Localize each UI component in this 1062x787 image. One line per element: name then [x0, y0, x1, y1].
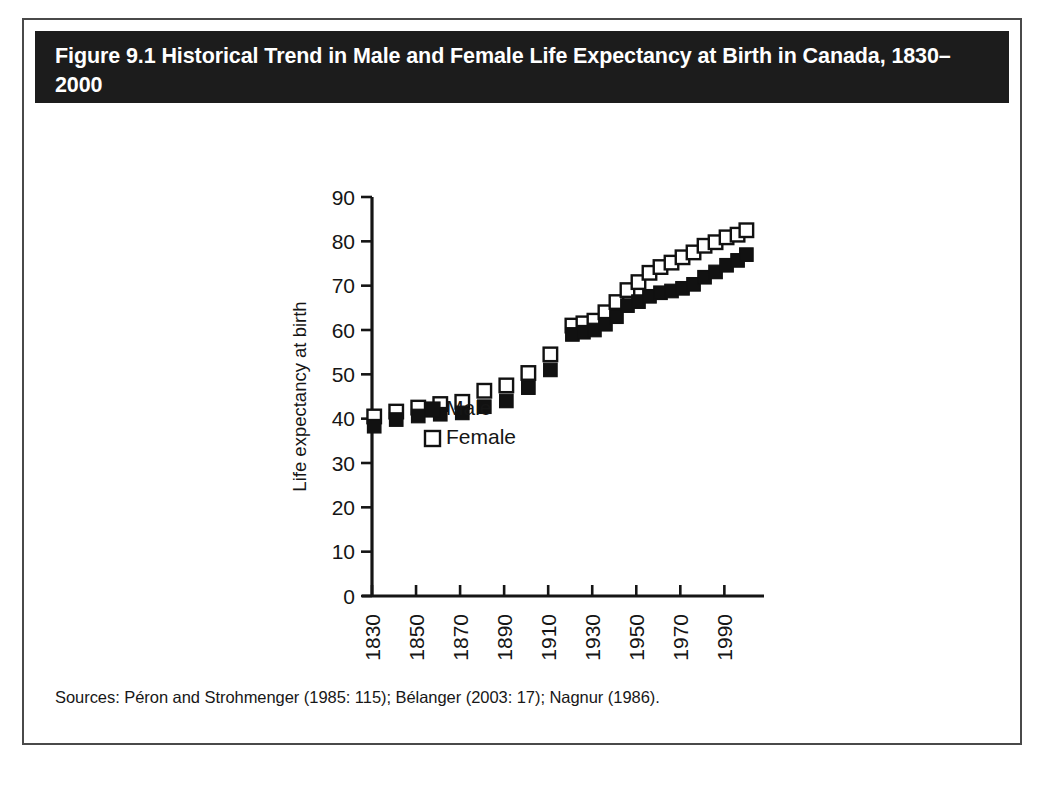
data-point-marker: [500, 394, 513, 408]
data-point-marker: [411, 409, 425, 423]
y-axis-tick-label: 60: [332, 319, 355, 342]
legend-swatch-male: [425, 402, 440, 417]
series-female-points: [367, 224, 753, 424]
sources-note: Sources: Péron and Strohmenger (1985: 11…: [55, 688, 660, 707]
y-axis-tick-label: 0: [343, 585, 355, 608]
x-axis-tick-label: 1890: [493, 614, 516, 661]
x-axis-tick-label: 1990: [713, 614, 736, 661]
y-axis-title: Life expectancy at birth: [289, 301, 310, 491]
y-axis-tick-label: 10: [332, 540, 355, 563]
data-point-marker: [522, 381, 536, 395]
y-axis-tick-label: 30: [332, 452, 355, 475]
data-point-marker: [500, 379, 513, 393]
data-point-marker: [389, 413, 403, 427]
figure-title-bar: Figure 9.1 Historical Trend in Male and …: [35, 31, 1009, 103]
data-point-marker: [740, 248, 754, 262]
data-point-marker: [544, 363, 558, 377]
legend-label-male: Male: [446, 396, 492, 419]
x-axis-tick-label: 1930: [581, 614, 604, 661]
data-point-marker: [367, 419, 381, 433]
y-axis-tick-label: 50: [332, 363, 355, 386]
y-axis-tick-label: 20: [332, 496, 355, 519]
page-title: Figure 9.1 Historical Trend in Male and …: [55, 42, 993, 99]
figure-page: Figure 9.1 Historical Trend in Male and …: [0, 0, 1062, 787]
legend-swatch-female: [425, 431, 440, 446]
x-axis-tick-label: 1870: [449, 614, 472, 661]
life-expectancy-scatter-chart: 0102030405060708090Life expectancy at bi…: [24, 103, 1020, 673]
data-point-marker: [544, 348, 558, 362]
x-axis-tick-label: 1970: [669, 614, 692, 661]
legend-label-female: Female: [446, 425, 516, 448]
y-axis-tick-label: 40: [332, 407, 355, 430]
x-axis-tick-label: 1910: [537, 614, 560, 661]
x-axis-tick-label: 1850: [405, 614, 428, 661]
figure-container: Figure 9.1 Historical Trend in Male and …: [22, 18, 1022, 745]
x-axis-tick-label: 1830: [361, 614, 384, 661]
data-point-marker: [740, 224, 754, 238]
plot-area: 0102030405060708090Life expectancy at bi…: [24, 103, 1020, 673]
data-point-marker: [522, 366, 536, 380]
y-axis-tick-label: 80: [332, 230, 355, 253]
x-axis-tick-label: 1950: [625, 614, 648, 661]
y-axis-tick-label: 70: [332, 274, 355, 297]
y-axis-tick-label: 90: [332, 186, 355, 209]
